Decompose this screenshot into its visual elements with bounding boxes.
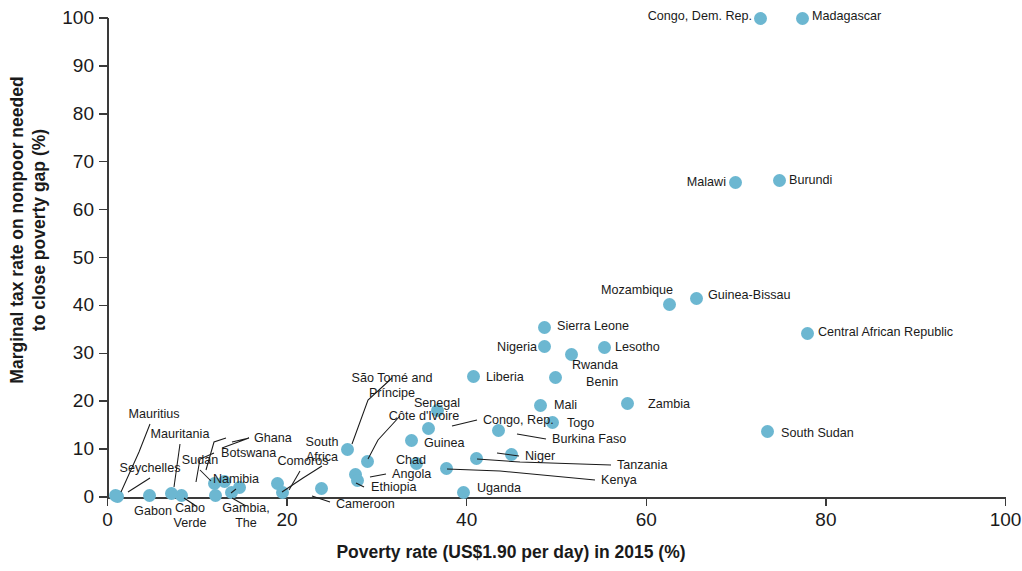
y-tick-label-90: 90 xyxy=(73,55,94,77)
point-label-mozambique: Mozambique xyxy=(601,283,673,298)
data-point xyxy=(761,425,774,438)
data-point xyxy=(773,174,786,187)
y-tick-label-0: 0 xyxy=(83,486,94,508)
x-tick-label-60: 60 xyxy=(606,509,686,531)
data-point xyxy=(111,490,124,503)
leader-line xyxy=(121,424,150,492)
y-tick-label-20: 20 xyxy=(73,390,94,412)
y-tick-label-50: 50 xyxy=(73,247,94,269)
x-tick-100 xyxy=(1005,497,1007,506)
y-tick-label-60: 60 xyxy=(73,199,94,221)
y-tick-60 xyxy=(99,209,108,211)
leader-line xyxy=(370,474,386,477)
x-tick-label-80: 80 xyxy=(786,509,866,531)
point-label-ethiopia: Ethiopia xyxy=(371,480,417,495)
x-axis-title: Poverty rate (US$1.90 per day) in 2015 (… xyxy=(0,541,1022,563)
x-axis-line xyxy=(107,497,1006,499)
y-tick-20 xyxy=(99,400,108,402)
data-point xyxy=(621,397,634,410)
point-label-malawi: Malawi xyxy=(687,175,726,190)
x-tick-label-40: 40 xyxy=(427,509,507,531)
point-label-uganda: Uganda xyxy=(477,481,521,496)
y-tick-30 xyxy=(99,353,108,355)
data-point xyxy=(315,482,328,495)
y-tick-90 xyxy=(99,65,108,67)
data-point xyxy=(470,452,483,465)
leader-line xyxy=(447,469,595,480)
point-label-central-african-republic: Central African Republic xyxy=(818,325,953,340)
data-point xyxy=(538,321,551,334)
y-tick-label-80: 80 xyxy=(73,103,94,125)
point-label-guinea: Guinea xyxy=(424,436,465,451)
y-tick-label-10: 10 xyxy=(73,438,94,460)
point-label-congo-dem-rep: Congo, Dem. Rep. xyxy=(648,9,752,24)
x-tick-label-100: 100 xyxy=(966,509,1022,531)
data-point xyxy=(405,434,418,447)
y-tick-70 xyxy=(99,161,108,163)
x-tick-80 xyxy=(825,497,827,506)
y-tick-10 xyxy=(99,448,108,450)
point-label-south-africa: South Africa xyxy=(306,435,339,465)
point-label-nigeria: Nigeria xyxy=(497,340,537,355)
point-label-mali: Mali xyxy=(554,398,577,413)
y-tick-80 xyxy=(99,113,108,115)
data-point xyxy=(467,370,480,383)
x-tick-0 xyxy=(107,497,109,506)
point-label-chad: Chad xyxy=(396,453,426,468)
y-axis-title-line2: to close poverty gap (%) xyxy=(28,20,50,440)
y-axis-title: Marginal tax rate on nonpoor needed to c… xyxy=(6,20,51,440)
point-label-cabo-verde: Cabo Verde xyxy=(174,501,207,531)
point-label-seychelles: Seychelles xyxy=(120,461,181,476)
point-label-sao-tome-and-principe: São Tomé and Príncipe xyxy=(352,371,433,401)
point-label-guinea-bissau: Guinea-Bissau xyxy=(708,288,791,303)
point-label-namibia: Namibia xyxy=(213,472,259,487)
point-label-niger: Niger xyxy=(525,449,555,464)
x-tick-60 xyxy=(646,497,648,506)
y-tick-100 xyxy=(99,17,108,19)
point-label-gabon: Gabon xyxy=(134,504,172,519)
point-label-gambia-the: Gambia, The xyxy=(222,501,270,531)
data-point xyxy=(538,340,551,353)
point-label-congo-rep: Congo, Rep. xyxy=(483,413,554,428)
point-label-togo: Togo xyxy=(567,416,594,431)
data-point xyxy=(361,455,374,468)
leader-line xyxy=(517,434,546,439)
point-label-sierra-leone: Sierra Leone xyxy=(557,319,629,334)
data-point xyxy=(549,371,562,384)
y-tick-40 xyxy=(99,305,108,307)
y-tick-50 xyxy=(99,257,108,259)
data-point xyxy=(422,422,435,435)
data-point xyxy=(457,486,470,499)
leader-line xyxy=(289,471,300,490)
point-label-kenya: Kenya xyxy=(601,473,637,488)
point-label-liberia: Liberia xyxy=(486,370,524,385)
data-point xyxy=(165,487,178,500)
point-label-lesotho: Lesotho xyxy=(615,340,660,355)
x-tick-20 xyxy=(286,497,288,506)
data-point xyxy=(341,443,354,456)
point-label-sudan: Sudan xyxy=(182,453,218,468)
data-point xyxy=(690,292,703,305)
point-label-burundi: Burundi xyxy=(789,173,832,188)
data-point xyxy=(796,12,809,25)
point-label-cote-divoire: Côte d'Ivoire xyxy=(389,409,459,424)
point-label-zambia: Zambia xyxy=(648,397,690,412)
data-point xyxy=(225,486,238,499)
data-point xyxy=(663,298,676,311)
data-point xyxy=(729,176,742,189)
point-label-mauritius: Mauritius xyxy=(128,407,179,422)
point-label-mauritania: Mauritania xyxy=(151,427,210,442)
data-point xyxy=(801,327,814,340)
point-label-benin: Benin xyxy=(586,375,618,390)
data-point xyxy=(209,489,222,502)
data-point xyxy=(276,486,289,499)
point-label-madagascar: Madagascar xyxy=(812,9,881,24)
point-label-south-sudan: South Sudan xyxy=(781,426,854,441)
point-label-ghana: Ghana xyxy=(254,431,292,446)
data-point xyxy=(505,448,518,461)
y-tick-label-100: 100 xyxy=(62,7,94,29)
point-label-botswana: Botswana xyxy=(221,446,276,461)
scatter-chart: 0102030405060708090100 020406080100 Marg… xyxy=(0,0,1022,571)
y-tick-label-30: 30 xyxy=(73,342,94,364)
data-point xyxy=(351,474,364,487)
